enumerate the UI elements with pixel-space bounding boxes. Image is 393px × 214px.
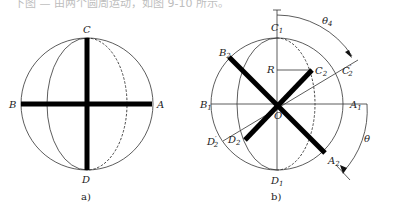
label-b: B (8, 99, 16, 110)
label-b1: B1 (199, 99, 212, 112)
label-c: C (83, 24, 91, 35)
label-a1: A1 (349, 99, 362, 112)
label-theta: θ (364, 133, 370, 144)
figure-b-caption: b) (271, 191, 281, 202)
label-b2: B2 (218, 47, 231, 60)
label-d2: D2 (227, 134, 241, 147)
label-o: O (274, 110, 282, 121)
label-r: R (266, 64, 275, 75)
label-c2-prime: C′2 (342, 64, 353, 78)
label-d2-prime: D′2 (206, 135, 219, 149)
figure-b: C1 D1 B1 A1 B2 C2 C′2 D2 D′2 A2 O R θ θ4… (199, 10, 370, 202)
label-d: D (81, 174, 90, 185)
figure-a: C D B A a) (8, 24, 164, 202)
label-theta4: θ4 (322, 15, 333, 28)
diagram-canvas: C D B A a) C1 D1 B1 A1 (0, 0, 393, 214)
label-c2: C2 (315, 65, 328, 78)
label-a2: A2 (327, 155, 340, 168)
figure-a-caption: a) (81, 191, 91, 202)
label-d1: D1 (270, 175, 284, 188)
label-a: A (156, 99, 164, 110)
